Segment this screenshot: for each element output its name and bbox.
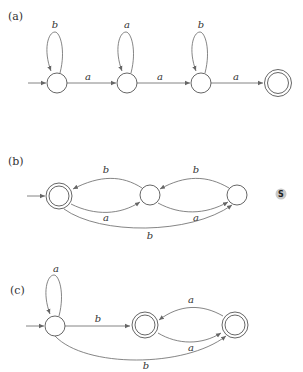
edge-label-b1-b0: b (103, 164, 109, 175)
edge-c0-c2 (55, 336, 226, 360)
edge-label-b2-b1: b (193, 164, 199, 175)
edge-label-c0-c0: a (53, 263, 59, 274)
edge-label-a2-a2: b (198, 19, 204, 30)
edge-label-a2-a3: a (233, 71, 239, 82)
state-c1-accepting (132, 312, 158, 338)
edge-b1-b0 (73, 178, 142, 189)
state-b2 (227, 185, 247, 205)
diagram-a: (a) b a b a a a (8, 10, 292, 97)
edge-label-b0-b1: a (103, 212, 109, 223)
self-loop-a2 (192, 32, 208, 73)
edge-label-c0-c1: b (95, 313, 101, 324)
edge-label-c0-c2: b (143, 360, 149, 371)
self-loop-a1 (118, 32, 134, 73)
edge-b2-b1 (160, 178, 229, 189)
badge-label: S (278, 190, 284, 199)
state-a2 (191, 73, 211, 93)
state-a1 (117, 73, 137, 93)
part-label-c: (c) (10, 284, 25, 297)
edge-label-c1-c2: a (188, 342, 194, 353)
edge-b0-b2 (64, 205, 232, 228)
edge-label-a0-a0: b (52, 19, 58, 30)
edge-b1-b2 (158, 202, 228, 212)
diagram-c: (c) a b a a b (10, 263, 248, 371)
edge-label-a0-a1: a (85, 71, 91, 82)
self-loop-c0 (46, 275, 62, 316)
edge-label-a1-a2: a (157, 71, 163, 82)
state-b1 (140, 185, 160, 205)
self-loop-a0 (47, 32, 63, 73)
state-b0-accepting (46, 183, 72, 209)
state-a0 (47, 73, 67, 93)
edge-b0-b1 (71, 202, 140, 212)
state-a3-accepting (265, 70, 292, 97)
edge-label-a1-a1: a (124, 19, 130, 30)
badge-s: S (276, 189, 287, 200)
diagram-b: (b) b a b a b S (8, 155, 287, 241)
part-label-a: (a) (8, 10, 23, 23)
edge-label-b0-b2: b (147, 230, 153, 241)
edge-label-c2-c1: a (188, 294, 194, 305)
state-c2-accepting (222, 312, 248, 338)
automata-figure: (a) b a b a a a (b) b a (0, 0, 303, 372)
state-c0 (45, 316, 65, 336)
edge-c1-c2 (158, 333, 221, 342)
edge-c2-c1 (159, 307, 223, 320)
part-label-b: (b) (8, 155, 24, 168)
